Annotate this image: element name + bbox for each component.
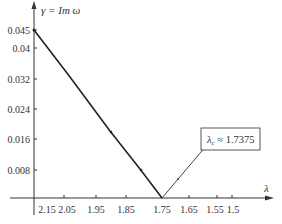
svg-text:1.75: 1.75 [153, 204, 171, 215]
svg-text:1.65: 1.65 [180, 204, 198, 215]
svg-text:2.05: 2.05 [58, 204, 76, 215]
svg-text:0.016: 0.016 [8, 134, 31, 145]
y-axis-title: γ = Im ω [41, 4, 81, 16]
svg-text:1.5: 1.5 [227, 204, 240, 215]
growth-rate-curve [34, 30, 162, 198]
curve-marker [110, 131, 113, 134]
curve-marker [177, 178, 179, 180]
svg-text:0.04: 0.04 [13, 43, 31, 54]
svg-text:0.032: 0.032 [8, 74, 31, 85]
svg-text:1.85: 1.85 [117, 204, 135, 215]
y-axis-arrow-icon [32, 1, 37, 9]
svg-text:0.045: 0.045 [8, 25, 31, 36]
curve-marker [140, 169, 143, 172]
svg-text:1.95: 1.95 [87, 204, 105, 215]
x-axis-title: λ [263, 182, 269, 194]
growth-rate-chart: 0.045 0.04 0.032 0.024 0.016 0.008 2.15 … [0, 0, 282, 224]
x-tick-labels: 2.15 2.05 1.95 1.85 1.75 1.65 1.55 1.5 [38, 204, 239, 215]
svg-text:0.024: 0.024 [8, 104, 31, 115]
curve-marker [33, 29, 36, 32]
svg-text:0.008: 0.008 [8, 165, 31, 176]
svg-text:2.15: 2.15 [38, 204, 56, 215]
critical-lambda-annotation: λc ≈ 1.7375 [201, 128, 260, 150]
svg-text:1.55: 1.55 [206, 204, 224, 215]
y-tick-labels: 0.045 0.04 0.032 0.024 0.016 0.008 [8, 25, 31, 176]
x-axis-arrow-icon [265, 196, 274, 201]
